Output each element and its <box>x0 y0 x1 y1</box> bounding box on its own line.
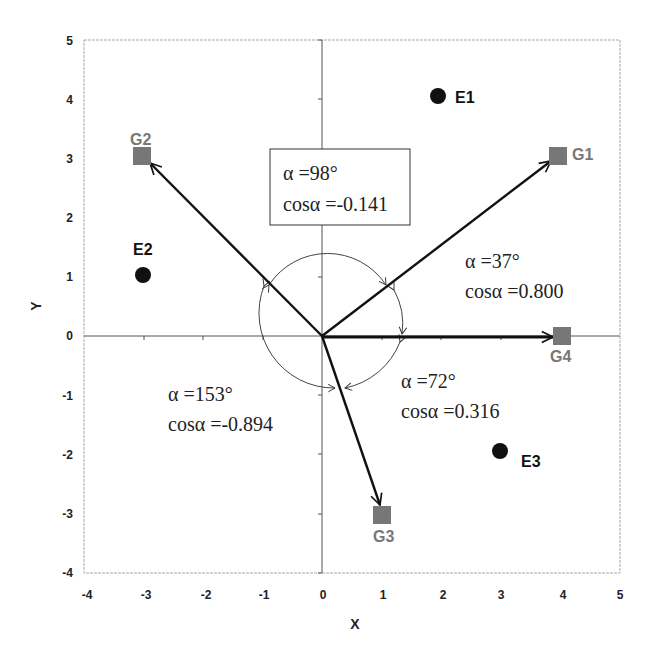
x-tick-labels: -4 -3 -2 -1 0 1 2 3 4 5 <box>82 588 624 602</box>
x-tick: -1 <box>259 588 270 602</box>
label-e3: E3 <box>521 453 541 470</box>
y-tick: -2 <box>62 448 73 462</box>
point-g2 <box>133 147 151 165</box>
x-tick: 5 <box>617 588 624 602</box>
x-tick: -3 <box>141 588 152 602</box>
y-tick: 4 <box>66 93 73 107</box>
annotation-98-alpha: α =98° <box>283 162 338 184</box>
annotation-72-cos: cosα =0.316 <box>401 400 499 422</box>
y-axis-title: Y <box>28 301 44 311</box>
x-tick: 3 <box>498 588 505 602</box>
point-e2 <box>135 267 151 283</box>
x-tick: -2 <box>201 588 212 602</box>
label-g4: G4 <box>550 348 571 365</box>
y-tick: 3 <box>66 152 73 166</box>
y-tick: -4 <box>62 566 73 580</box>
point-e3 <box>492 443 508 459</box>
x-tick: 4 <box>560 588 567 602</box>
y-tick: -3 <box>62 507 73 521</box>
annotation-153-alpha: α =153° <box>168 383 233 405</box>
y-tick: 1 <box>66 270 73 284</box>
annotation-37-alpha: α =37° <box>465 250 520 272</box>
plot-area <box>84 40 620 573</box>
annotation-153-cos: cosα =-0.894 <box>168 413 273 435</box>
point-g4 <box>553 327 571 345</box>
label-g3: G3 <box>373 528 394 545</box>
label-g2: G2 <box>130 131 151 148</box>
label-g1: G1 <box>572 146 593 163</box>
vector-scatter-chart: 5 4 3 2 1 0 -1 -2 -3 -4 -4 -3 -2 -1 0 1 … <box>0 0 653 663</box>
label-e1: E1 <box>455 89 475 106</box>
x-tick: 0 <box>320 588 327 602</box>
annotation-37-cos: cosα =0.800 <box>465 280 563 302</box>
annotation-72-alpha: α =72° <box>401 370 456 392</box>
y-tick-labels: 5 4 3 2 1 0 -1 -2 -3 -4 <box>62 34 73 580</box>
x-tick: -4 <box>82 588 93 602</box>
label-e2: E2 <box>133 241 153 258</box>
y-tick: 2 <box>66 211 73 225</box>
y-tick: 5 <box>66 34 73 48</box>
x-axis-title: X <box>350 616 360 632</box>
y-tick: 0 <box>66 329 73 343</box>
y-tick: -1 <box>62 389 73 403</box>
point-g3 <box>373 506 391 524</box>
x-tick: 2 <box>440 588 447 602</box>
point-g1 <box>549 147 567 165</box>
annotation-98-cos: cosα =-0.141 <box>283 193 388 215</box>
x-tick: 1 <box>380 588 387 602</box>
point-e1 <box>430 88 446 104</box>
